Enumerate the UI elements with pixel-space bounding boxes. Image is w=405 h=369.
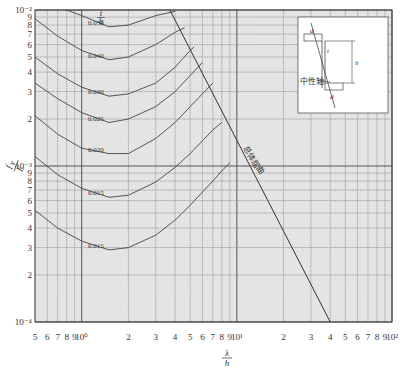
y-tick-label: 6 — [28, 40, 33, 50]
series-label: 0.015 — [88, 242, 104, 250]
x-tick-label: 7 — [55, 332, 60, 342]
y-tick-label: 2 — [28, 114, 33, 124]
svg-text:h: h — [225, 358, 230, 368]
series-label: 0.030 — [88, 88, 104, 96]
y-tick-label: 2 — [28, 270, 33, 280]
x-tick-label: 6 — [200, 332, 205, 342]
y-tick-label: 4 — [28, 67, 33, 77]
chart: 0.0500.0400.0300.0250.0200.0150.015 5678… — [0, 0, 405, 369]
series-label: 0.015 — [88, 189, 104, 197]
x-axis-label: λ h — [222, 348, 232, 368]
x-tick-label: 10² — [386, 332, 398, 342]
y-tick-label: 3 — [28, 87, 33, 97]
series-label: 0.040 — [88, 52, 104, 60]
svg-text:λ: λ — [224, 348, 229, 358]
y-tick-label: 3 — [28, 243, 33, 253]
x-tick-label: 8 — [64, 332, 69, 342]
x-tick-label: 10⁰ — [75, 332, 88, 342]
svg-text:h: h — [99, 16, 104, 26]
x-ticks: 5678910⁰2345678910¹2345678910² — [33, 332, 398, 342]
y-tick-label: 7 — [28, 29, 33, 39]
x-tick-label: 6 — [355, 332, 360, 342]
inset-d-bottom: d — [330, 93, 334, 101]
series-label: 0.020 — [88, 146, 104, 154]
x-tick-label: 5 — [188, 332, 193, 342]
x-tick-label: 6 — [45, 332, 50, 342]
section-inset: d t h 中性轴 d — [298, 17, 388, 113]
x-tick-label: 7 — [211, 332, 216, 342]
inset-d-top: d — [310, 27, 314, 35]
x-tick-label: 2 — [126, 332, 131, 342]
inset-neutral-axis: 中性轴 — [300, 76, 324, 86]
y-tick-label: 4 — [28, 223, 33, 233]
x-tick-label: 10¹ — [231, 332, 243, 342]
x-tick-label: 7 — [366, 332, 371, 342]
x-tick-label: 4 — [173, 332, 178, 342]
x-tick-label: 8 — [220, 332, 225, 342]
x-tick-label: 5 — [343, 332, 348, 342]
series-label: 0.025 — [88, 115, 104, 123]
y-tick-label: 10⁻⁴ — [15, 317, 32, 327]
x-tick-label: 4 — [328, 332, 333, 342]
x-tick-label: 8 — [375, 332, 380, 342]
y-tick-label: 5 — [28, 208, 33, 218]
x-tick-label: 3 — [309, 332, 314, 342]
inset-h: h — [355, 59, 359, 67]
y-tick-label: 5 — [28, 52, 33, 62]
x-tick-label: 5 — [33, 332, 38, 342]
y-tick-label: 6 — [28, 196, 33, 206]
y-tick-label: 7 — [28, 185, 33, 195]
x-tick-label: 3 — [153, 332, 158, 342]
x-tick-label: 2 — [281, 332, 286, 342]
